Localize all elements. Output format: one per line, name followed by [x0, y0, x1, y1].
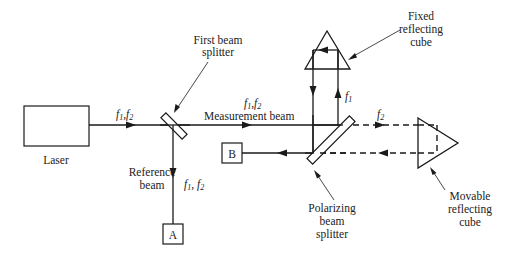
interferometer-diagram: Laser f1,f2 f1,f2 Measurement beam First…: [0, 0, 513, 261]
polarizing-splitter-label-3: splitter: [316, 228, 348, 241]
laser: Laser: [24, 106, 89, 166]
movable-return-arrow-icon: [378, 150, 388, 157]
polarizing-splitter-pointer-arrow-icon: [314, 170, 321, 179]
first-beam-splitter: First beam splitter: [161, 34, 243, 139]
polarizing-splitter-label-1: Polarizing: [308, 202, 356, 215]
fixed-outgoing-arrow-icon: [335, 88, 342, 98]
fixed-cube-arrow-icon: [318, 47, 328, 54]
polarizing-splitter-label-2: beam: [320, 215, 345, 227]
detector-a: A: [163, 224, 183, 244]
return-beam-arrow-icon: [277, 150, 287, 157]
laser-output-arrow-icon: [126, 122, 136, 129]
movable-cube-label-3: cube: [459, 216, 481, 228]
laser-box: [24, 106, 89, 146]
fixed-cube-pointer: [352, 30, 400, 57]
movable-outgoing-arrow-icon: [375, 122, 385, 129]
measurement-freq-label: f1,f2: [244, 97, 261, 111]
fixed-cube-label-1: Fixed: [408, 10, 434, 22]
measurement-beam-arrow-icon: [242, 122, 252, 129]
movable-cube-label-1: Movable: [450, 190, 491, 202]
polarizing-beam-splitter: Polarizing beam splitter: [305, 115, 356, 241]
measurement-beam-label: Measurement beam: [204, 110, 294, 122]
movable-reflecting-cube: Movable reflecting cube: [418, 118, 492, 228]
polarizing-splitter-plate: [307, 116, 355, 164]
detector-b: B: [222, 143, 242, 163]
laser-output-freq-label: f1,f2: [116, 108, 133, 122]
laser-label: Laser: [43, 154, 69, 166]
first-beam-splitter-label-2: splitter: [202, 46, 234, 59]
detector-a-label: A: [169, 229, 178, 241]
fixed-return-arrow-icon: [310, 86, 317, 96]
movable-freq-label: f2: [377, 108, 384, 122]
fixed-freq-label: f1: [345, 90, 352, 104]
fixed-cube-label-3: cube: [410, 36, 432, 48]
first-splitter-pointer: [176, 62, 208, 110]
reference-freq-label: f1, f2: [184, 178, 204, 192]
reference-beam-label-1: Reference: [129, 166, 176, 178]
first-beam-splitter-plate: [161, 113, 187, 139]
reference-beam-label-2: beam: [140, 179, 165, 191]
fixed-reflecting-cube: Fixed reflecting cube: [305, 10, 443, 69]
first-beam-splitter-label-1: First beam: [194, 34, 243, 46]
movable-cube-label-2: reflecting: [448, 203, 492, 216]
fixed-cube-pointer-arrow-icon: [348, 53, 357, 60]
fixed-cube-label-2: reflecting: [399, 23, 443, 36]
detector-b-label: B: [228, 148, 236, 160]
movable-cube-pointer-arrow-icon: [430, 167, 437, 175]
